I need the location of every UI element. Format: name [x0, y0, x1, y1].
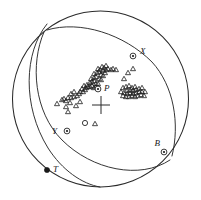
axis-label-t: T	[53, 164, 59, 174]
axis-marker-y: Y	[52, 126, 70, 136]
circled-dot-center-icon	[163, 151, 165, 153]
axis-label-b: B	[155, 138, 161, 148]
triangle-marker	[93, 121, 98, 125]
triangle-marker	[66, 109, 71, 113]
nodal-plane-3	[47, 27, 175, 156]
axis-marker-p: P	[95, 83, 110, 93]
axis-label-x: X	[139, 46, 146, 56]
circled-dot-center-icon	[97, 88, 99, 90]
triangle-marker	[131, 66, 136, 70]
open-circle-markers-group	[82, 120, 87, 125]
axis-markers-group: XPYBT	[44, 46, 167, 174]
stereonet-canvas: XPYBT	[0, 0, 201, 200]
triangle-marker	[122, 76, 127, 80]
triangle-marker	[78, 99, 83, 103]
center-cross-group	[92, 96, 110, 114]
filled-dot-icon	[44, 167, 49, 172]
triangle-marker	[55, 101, 60, 105]
triangle-marker	[72, 89, 77, 93]
axis-marker-x: X	[130, 46, 146, 59]
stereonet-figure: XPYBT	[0, 0, 201, 200]
open-circle-datum	[82, 120, 87, 125]
circled-dot-center-icon	[66, 130, 68, 132]
triangle-markers-group	[55, 63, 148, 125]
axis-marker-b: B	[155, 138, 167, 155]
axis-label-p: P	[103, 83, 110, 93]
circled-dot-center-icon	[132, 55, 134, 57]
triangle-marker	[126, 70, 131, 74]
nodal-plane-2	[36, 32, 170, 170]
